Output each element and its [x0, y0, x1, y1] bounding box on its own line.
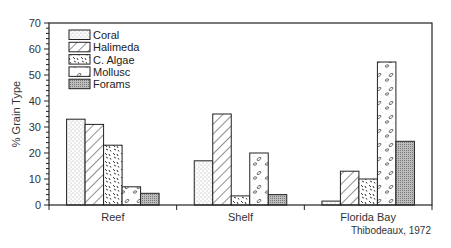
bar-halimeda-shelf: [213, 114, 232, 205]
y-axis: 010203040506070: [29, 17, 49, 211]
bar-forams-shelf: [268, 195, 287, 205]
y-tick-label: 70: [29, 17, 41, 29]
bar-coral-reef: [67, 119, 86, 205]
legend-swatch: [69, 42, 90, 52]
legend-label: Forams: [93, 78, 131, 90]
x-category-label: Shelf: [228, 211, 254, 223]
bar-c-algae-reef: [104, 145, 123, 205]
legend-swatch: [69, 30, 90, 40]
y-tick-label: 50: [29, 69, 41, 81]
y-tick-label: 60: [29, 43, 41, 55]
bar-c-algae-florida-bay: [359, 179, 378, 205]
bar-c-algae-shelf: [231, 196, 250, 205]
y-tick-label: 20: [29, 147, 41, 159]
legend-swatch: [69, 79, 90, 89]
legend-swatch: [69, 55, 90, 65]
bar-mollusc-florida-bay: [377, 62, 396, 205]
legend-label: Coral: [93, 29, 119, 41]
y-tick-label: 10: [29, 173, 41, 185]
bar-coral-shelf: [194, 161, 213, 205]
legend-swatch: [69, 67, 90, 77]
legend-label: Halimeda: [93, 41, 140, 53]
y-axis-label: % Grain Type: [10, 81, 22, 147]
y-tick-label: 40: [29, 95, 41, 107]
y-tick-label: 0: [35, 199, 41, 211]
bar-mollusc-shelf: [250, 153, 269, 205]
bar-halimeda-florida-bay: [340, 171, 359, 205]
legend: CoralHalimedaC. AlgaeMolluscForams: [69, 29, 140, 90]
bar-forams-florida-bay: [396, 141, 415, 205]
bar-halimeda-reef: [85, 124, 104, 205]
legend-label: Mollusc: [93, 66, 131, 78]
legend-label: C. Algae: [93, 54, 135, 66]
x-axis: ReefShelfFlorida Bay: [49, 205, 432, 223]
bar-chart: % Grain Type 010203040506070 ReefShelfFl…: [0, 0, 451, 248]
source-credit: Thibodeaux, 1972: [351, 225, 432, 236]
x-category-label: Florida Bay: [340, 211, 396, 223]
bar-mollusc-reef: [122, 187, 141, 205]
x-category-label: Reef: [101, 211, 125, 223]
y-tick-label: 30: [29, 121, 41, 133]
bar-forams-reef: [141, 193, 160, 205]
